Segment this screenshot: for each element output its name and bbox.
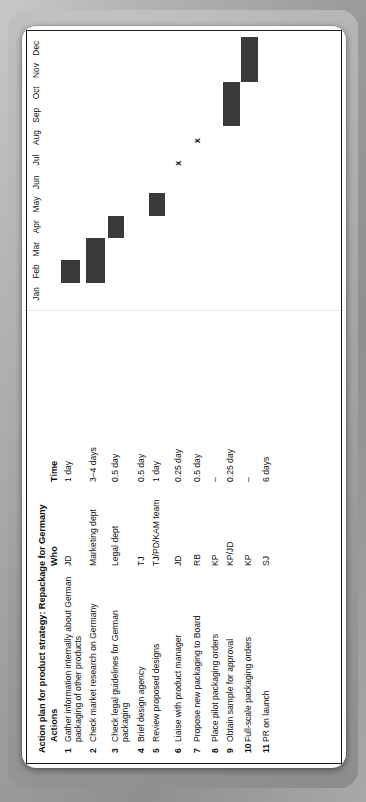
header-actions: Actions: [49, 566, 59, 742]
month-label-mar: Mar: [31, 242, 41, 256]
row-who: KP/JD: [225, 482, 235, 566]
row-time: 0.5 day: [110, 420, 120, 482]
row-who: TJ/PD/KAM team: [151, 482, 161, 566]
gantt-bar: [86, 238, 105, 283]
gantt-chart: JanFebMarAprMayJunJulAugSepOctNovDec xx: [27, 31, 341, 311]
month-label-apr: Apr: [31, 220, 41, 233]
row-who: SJ: [261, 482, 271, 566]
row-action: Obtain sample for approval: [225, 566, 235, 742]
row-action: Gather information internally about Germ…: [63, 566, 84, 742]
page-title: Action plan for product strategy: Repack…: [36, 311, 48, 753]
month-label-jun: Jun: [31, 175, 41, 189]
month-label-oct: Oct: [31, 86, 41, 99]
month-label-aug: Aug: [31, 130, 41, 145]
row-who: KP: [210, 482, 220, 566]
row-time: 6 days: [261, 420, 271, 482]
row-time: 1 day: [63, 420, 73, 482]
row-time: 0.25 day: [225, 420, 235, 482]
row-action: Full-scale packaging orders: [243, 566, 253, 742]
month-label-may: May: [31, 197, 41, 213]
row-number: 11: [261, 742, 271, 753]
gantt-bar: [149, 193, 165, 215]
row-number: 5: [151, 742, 161, 753]
gantt-bars-area: xx: [53, 31, 341, 311]
header-who: Who: [49, 482, 59, 566]
row-who: Marketing dept: [88, 482, 98, 566]
row-who: TJ: [136, 482, 146, 566]
gantt-bar: [241, 37, 258, 82]
row-number: 8: [210, 742, 220, 753]
row-action: PR on launch: [261, 566, 271, 742]
row-number: 10: [243, 742, 253, 753]
row-action: Check legal guidelines for German packag…: [110, 566, 131, 742]
gantt-month-axis: JanFebMarAprMayJunJulAugSepOctNovDec: [27, 31, 53, 311]
gantt-bar: [108, 216, 124, 238]
row-action: Review proposed designs: [151, 566, 161, 742]
table-row: 5Review proposed designsTJ/PD/KAM team1 …: [151, 323, 161, 753]
row-number: 1: [63, 742, 73, 753]
row-action: Liaise with product manager: [173, 566, 183, 742]
row-time: 3–4 days: [88, 420, 98, 482]
row-number: 9: [225, 742, 235, 753]
month-label-feb: Feb: [31, 264, 41, 278]
row-who: JD: [173, 482, 183, 566]
row-who: RB: [192, 482, 202, 566]
row-who: KP: [243, 482, 253, 566]
table-row: 10Full-scale packaging ordersKP–: [243, 323, 253, 753]
row-time: 1 day: [151, 420, 161, 482]
action-plan-table: Action plan for product strategy: Repack…: [27, 311, 341, 763]
table-row: 4Brief design agencyTJ0.5 day: [136, 323, 146, 753]
month-label-dec: Dec: [31, 41, 41, 56]
row-who: JD: [63, 482, 73, 566]
table-row: 6Liaise with product managerJD0.25 day: [173, 323, 183, 753]
row-number: 7: [192, 742, 202, 753]
row-action: Brief design agency: [136, 566, 146, 742]
row-number: 6: [173, 742, 183, 753]
row-who: Legal dept: [110, 482, 120, 566]
row-time: 0.5 day: [136, 420, 146, 482]
row-number: 3: [110, 742, 120, 753]
table-row: 3Check legal guidelines for German packa…: [110, 323, 131, 753]
gantt-bar: [61, 260, 80, 282]
table-header-row: Actions Who Time: [49, 311, 62, 753]
row-number: 2: [88, 742, 98, 753]
row-time: –: [210, 420, 220, 482]
header-time: Time: [49, 420, 59, 482]
table-row: 7Propose new packaging to BoardRB0.5 day: [192, 323, 202, 753]
table-row: 2Check market research on GermanyMarketi…: [88, 323, 98, 753]
month-label-nov: Nov: [31, 63, 41, 78]
row-action: Propose new packaging to Board: [192, 566, 202, 742]
table-row: 11PR on launchSJ6 days: [261, 323, 271, 753]
action-plan-sheet: Action plan for product strategy: Repack…: [26, 30, 342, 764]
table-row: 1Gather information internally about Ger…: [63, 323, 84, 753]
month-label-jul: Jul: [31, 154, 41, 165]
row-time: 0.5 day: [192, 420, 202, 482]
row-action: Place pilot packaging orders: [210, 566, 220, 742]
document-card: Action plan for product strategy: Repack…: [22, 26, 346, 768]
gantt-milestone-marker: x: [174, 161, 183, 166]
row-number: 4: [136, 742, 146, 753]
row-time: 0.25 day: [173, 420, 183, 482]
row-time: –: [243, 420, 253, 482]
month-label-sep: Sep: [31, 108, 41, 123]
gantt-milestone-marker: x: [193, 138, 202, 143]
table-row: 8Place pilot packaging ordersKP–: [210, 323, 220, 753]
gantt-bar: [223, 82, 240, 127]
row-action: Check market research on Germany: [88, 566, 98, 742]
table-row: 9Obtain sample for approvalKP/JD0.25 day: [225, 323, 235, 753]
month-label-jan: Jan: [31, 287, 41, 301]
rotated-page-stage: Action plan for product strategy: Repack…: [26, 30, 342, 764]
